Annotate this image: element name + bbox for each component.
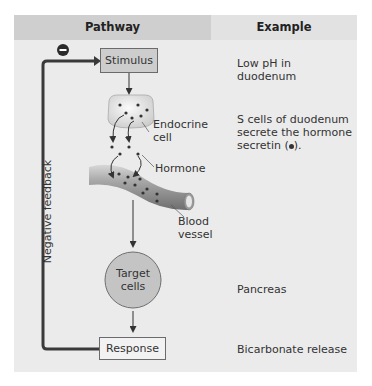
diagram-panel: Pathway Example — [14, 15, 357, 372]
hormone-label: Hormone — [155, 162, 206, 175]
response-box: Response — [99, 337, 166, 360]
endocrine-cell-label: Endocrine cell — [153, 118, 208, 144]
example-target: Pancreas — [237, 283, 367, 296]
endocrine-cell-shape — [108, 95, 154, 132]
blood-vessel-label: Blood vessel — [178, 215, 213, 241]
minus-sign-icon — [57, 44, 69, 56]
example-response: Bicarbonate release — [237, 343, 367, 356]
example-secretion: S cells of duodenum secrete the hormone … — [237, 113, 367, 152]
negative-feedback-label: Negative feedback — [41, 157, 54, 267]
example-stimulus: Low pH in duodenum — [237, 57, 367, 83]
target-cells-label: Target cells — [107, 267, 159, 293]
stimulus-box: Stimulus — [100, 48, 158, 73]
